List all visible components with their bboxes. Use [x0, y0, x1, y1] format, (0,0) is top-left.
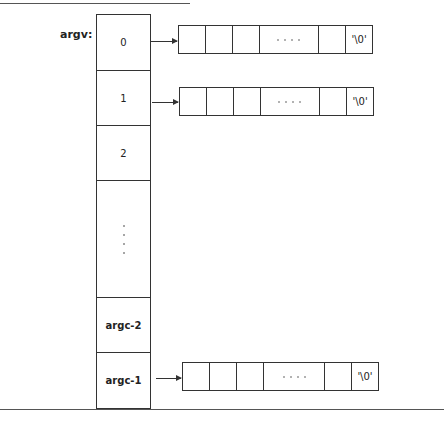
horizontal-ellipsis-icon: [283, 376, 306, 378]
argv-label: argv:: [60, 28, 92, 41]
string-array-1: '\0': [179, 87, 374, 116]
char-cell: [179, 26, 206, 53]
char-ellipsis: [260, 26, 320, 53]
horizontal-ellipsis-icon: [278, 101, 301, 103]
char-cell: [320, 88, 347, 115]
char-cell: [237, 363, 264, 390]
null-terminator-cell: '\0': [346, 26, 372, 53]
char-cell: [234, 88, 261, 115]
char-cell: [207, 88, 234, 115]
pointer-arrow-1: [152, 102, 178, 103]
argv-cell-1: 1: [96, 70, 151, 126]
null-terminator-cell: '\0': [347, 88, 373, 115]
argv-cell-0: 0: [96, 14, 151, 71]
bottom-rule: [0, 409, 444, 410]
char-ellipsis: [264, 363, 325, 390]
char-ellipsis: [261, 88, 321, 115]
argv-cell-ellipsis: [96, 180, 151, 298]
null-terminator: '\0': [357, 371, 372, 382]
vertical-ellipsis-icon: [123, 225, 125, 254]
string-array-argc-1: '\0': [182, 362, 379, 391]
top-rule: [0, 3, 190, 4]
char-cell: [183, 363, 210, 390]
char-cell: [206, 26, 233, 53]
char-cell: [180, 88, 207, 115]
char-cell: [319, 26, 346, 53]
char-cell: [325, 363, 352, 390]
char-cell: [210, 363, 237, 390]
null-terminator-cell: '\0': [352, 363, 378, 390]
cell-label: argc-1: [106, 375, 142, 386]
string-array-0: '\0': [178, 25, 373, 54]
argv-cell-argc-2: argc-2: [96, 297, 151, 353]
cell-label: argc-2: [106, 320, 142, 331]
pointer-arrow-0: [151, 41, 177, 42]
char-cell: [233, 26, 260, 53]
pointer-arrow-argc-1: [156, 378, 181, 379]
argv-cell-argc-1: argc-1: [96, 352, 151, 409]
argv-pointer-array: 0 1 2 argc-2 argc-1: [96, 14, 151, 409]
null-terminator: '\0': [351, 34, 366, 45]
cell-label: 1: [120, 93, 126, 104]
cell-label: 0: [120, 37, 126, 48]
cell-label: 2: [120, 148, 126, 159]
null-terminator: '\0': [352, 96, 367, 107]
argv-cell-2: 2: [96, 125, 151, 181]
horizontal-ellipsis-icon: [277, 39, 300, 41]
